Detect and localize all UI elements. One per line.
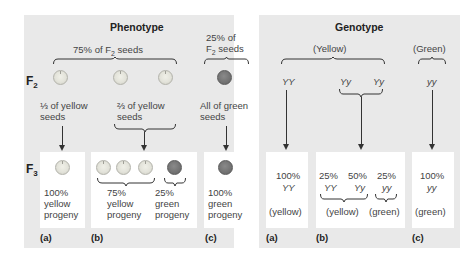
green-group-label-line2: F2 seeds (206, 43, 244, 54)
geno-box-b-pct-1: 25% (319, 170, 338, 181)
geno-box-b-pct-3: 25% (377, 170, 396, 181)
geno-arrow-c-head (429, 144, 435, 150)
geno-box-a-pheno: (yellow) (269, 206, 302, 217)
box-b-yellow-brace (97, 178, 155, 186)
f3-box-b-yellow-seed-1 (96, 160, 111, 175)
phenotype-label-c: (c) (205, 232, 217, 243)
f3-box-b-yellow-seed-2 (116, 160, 131, 175)
genotype-f2-Yy-2: Yy (373, 76, 384, 87)
genotype-label-a: (a) (266, 232, 278, 243)
box-b-left-line2: yellow (107, 198, 133, 209)
f3-generation-label: F3 (26, 164, 38, 175)
geno-box-b-geno-3: yy (382, 182, 392, 193)
green-group-label-line1: 25% of (206, 32, 236, 43)
geno-box-b-pct-2: 50% (348, 170, 367, 181)
f3-box-a-yellow-seed (55, 160, 70, 175)
geno-box-c-pct: 100% (420, 170, 444, 181)
green-group-brace (204, 57, 249, 65)
arrow-a-line (62, 126, 63, 146)
geno-arrow-b-line (361, 97, 362, 145)
desc-c-line1: All of green (200, 100, 248, 111)
arrow-c-line (226, 126, 227, 146)
phenotype-label-a: (a) (40, 232, 52, 243)
geno-box-c-geno: yy (427, 182, 437, 193)
box-c-line1: 100% (208, 187, 232, 198)
desc-a-line1: ⅓ of yellow (40, 100, 88, 111)
geno-arrow-a-line (286, 90, 287, 145)
arrow-b-line (144, 132, 145, 146)
genotype-label-b: (b) (316, 232, 328, 243)
genotype-f2-Yy-1: Yy (340, 76, 351, 87)
geno-box-b-green-brace (375, 194, 397, 202)
geno-box-a-pct: 100% (276, 170, 300, 181)
geno-box-c-pheno: (green) (415, 206, 446, 217)
box-b-green-brace (164, 178, 186, 186)
genotype-f2-YY: YY (282, 76, 295, 87)
genotype-yellow-brace (281, 57, 385, 65)
yellow-group-label: 75% of F2 seeds (73, 44, 143, 55)
arrow-a-head (59, 145, 65, 151)
geno-arrow-a-head (283, 144, 289, 150)
f2-yellow-seed-1 (53, 70, 68, 85)
geno-box-b-yellow-brace (320, 194, 368, 202)
genotype-green-group-label: (Green) (413, 43, 446, 54)
f2-yellow-seed-3 (158, 70, 173, 85)
arrow-c-head (223, 145, 229, 151)
box-c-line3: progeny (208, 209, 242, 220)
geno-Yy-brace (339, 89, 383, 97)
f3-box-b-yellow-seed-3 (138, 160, 153, 175)
genotype-yellow-group-label: (Yellow) (313, 43, 346, 54)
f2-yellow-seed-2 (113, 70, 128, 85)
geno-box-a-geno: YY (282, 182, 295, 193)
phenotype-label-b: (b) (91, 232, 103, 243)
box-a-line2: yellow (44, 198, 70, 209)
box-b-right-line1: 25% (155, 187, 174, 198)
genotype-label-c: (c) (412, 232, 424, 243)
box-a-line3: progeny (44, 209, 78, 220)
genotype-f2-yy: yy (427, 76, 437, 87)
genotype-green-brace (418, 57, 446, 65)
desc-c-line2: seeds (200, 111, 225, 122)
geno-box-b-geno-2: Yy (354, 182, 365, 193)
geno-arrow-c-line (432, 90, 433, 145)
geno-box-b-pheno-right: (green) (369, 206, 400, 217)
geno-arrow-b-head (358, 144, 364, 150)
desc-b-line2: seeds (117, 111, 142, 122)
f2-generation-label: F2 (26, 76, 38, 87)
genotype-title: Genotype (335, 22, 383, 33)
box-c-line2: green (208, 198, 232, 209)
box-b-right-line3: progeny (155, 209, 189, 220)
box-b-left-line1: 75% (107, 187, 126, 198)
geno-box-b-geno-1: YY (324, 182, 337, 193)
phenotype-title: Phenotype (110, 22, 164, 33)
arrow-b-head (141, 145, 147, 151)
f3-box-c-green-seed (218, 160, 233, 175)
box-b-left-line3: progeny (107, 209, 141, 220)
f3-box-b-green-seed (167, 160, 182, 175)
f2-green-seed (217, 70, 232, 85)
desc-b-brace (114, 124, 176, 132)
geno-box-b-pheno-left: (yellow) (326, 206, 359, 217)
yellow-group-brace (53, 57, 177, 65)
box-b-right-line2: green (155, 198, 179, 209)
box-a-line1: 100% (44, 187, 68, 198)
desc-a-line2: seeds (40, 111, 65, 122)
desc-b-line1: ⅔ of yellow (117, 100, 165, 111)
